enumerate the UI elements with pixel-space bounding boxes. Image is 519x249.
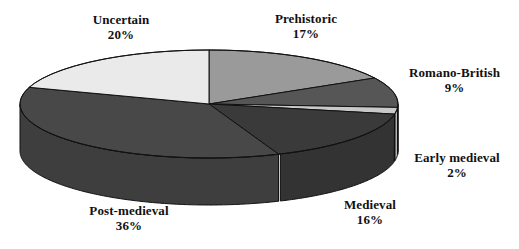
slice-label-romano-british-name: Romano-British bbox=[392, 65, 517, 80]
slice-label-post-medieval: Post-medieval 36% bbox=[62, 203, 196, 233]
slice-label-early-medieval-name: Early medieval bbox=[398, 150, 516, 165]
slice-label-post-medieval-value: 36% bbox=[62, 218, 196, 233]
slice-label-prehistoric-value: 17% bbox=[250, 26, 362, 41]
slice-label-medieval-name: Medieval bbox=[322, 197, 418, 212]
slice-label-medieval-value: 16% bbox=[322, 212, 418, 227]
slice-label-early-medieval-value: 2% bbox=[398, 165, 516, 180]
slice-label-uncertain: Uncertain 20% bbox=[66, 12, 176, 42]
slice-label-prehistoric-name: Prehistoric bbox=[250, 11, 362, 26]
slice-label-prehistoric: Prehistoric 17% bbox=[250, 11, 362, 41]
pie-3d-group bbox=[20, 50, 398, 205]
slice-label-post-medieval-name: Post-medieval bbox=[62, 203, 196, 218]
pie-top-slices bbox=[20, 50, 398, 158]
slice-label-uncertain-value: 20% bbox=[66, 27, 176, 42]
slice-label-early-medieval: Early medieval 2% bbox=[398, 150, 516, 180]
pie-chart-figure: Uncertain 20% Prehistoric 17% Romano-Bri… bbox=[0, 0, 519, 249]
slice-label-romano-british-value: 9% bbox=[392, 80, 517, 95]
slice-label-uncertain-name: Uncertain bbox=[66, 12, 176, 27]
slice-label-medieval: Medieval 16% bbox=[322, 197, 418, 227]
slice-label-romano-british: Romano-British 9% bbox=[392, 65, 517, 95]
